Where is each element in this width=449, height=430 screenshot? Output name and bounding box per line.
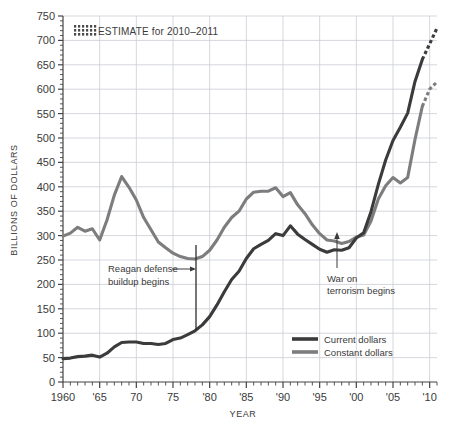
y-tick-label: 450 [37, 156, 55, 168]
reagan-annotation-line-2: buildup begins [108, 276, 170, 287]
y-tick-label: 150 [37, 303, 55, 315]
x-tick-label: '00 [349, 391, 363, 403]
y-tick-label: 650 [37, 59, 55, 71]
y-tick-label: 0 [49, 376, 55, 388]
chart-canvas: 0501001502002503003504004505005506006507… [0, 0, 449, 430]
defense-spending-chart: 0501001502002503003504004505005506006507… [0, 0, 449, 430]
x-tick-label: 75 [167, 391, 179, 403]
wot-annotation-line-2: terrorism begins [327, 285, 395, 296]
y-tick-label: 300 [37, 230, 55, 242]
x-tick-label: '85 [239, 391, 253, 403]
legend-label-current-dollars: Current dollars [324, 334, 387, 345]
x-tick-label: '65 [92, 391, 106, 403]
x-tick-label: 70 [130, 391, 142, 403]
y-tick-label: 100 [37, 327, 55, 339]
y-axis-title: BILLIONS OF DOLLARS [9, 144, 19, 255]
y-tick-label: 400 [37, 181, 55, 193]
x-tick-label: 1960 [51, 391, 75, 403]
y-tick-label: 700 [37, 34, 55, 46]
x-tick-label: '05 [386, 391, 400, 403]
estimate-key-label: ESTIMATE for 2010–2011 [98, 26, 218, 37]
y-tick-label: 600 [37, 83, 55, 95]
y-tick-label: 50 [43, 352, 55, 364]
x-tick-label: '10 [422, 391, 436, 403]
reagan-annotation-line-1: Reagan defense [108, 263, 178, 274]
wot-annotation-line-1: War on [327, 273, 357, 284]
y-tick-label: 550 [37, 108, 55, 120]
y-tick-label: 350 [37, 205, 55, 217]
estimate-key: ESTIMATE for 2010–2011 [74, 25, 218, 37]
x-tick-label: '95 [312, 391, 326, 403]
y-tick-label: 750 [37, 10, 55, 22]
x-tick-label: '90 [276, 391, 290, 403]
x-axis-title: YEAR [230, 409, 257, 419]
y-tick-label: 250 [37, 254, 55, 266]
y-tick-label: 500 [37, 132, 55, 144]
y-tick-label: 200 [37, 278, 55, 290]
legend-label-constant-dollars: Constant dollars [324, 347, 393, 358]
x-tick-label: '80 [202, 391, 216, 403]
